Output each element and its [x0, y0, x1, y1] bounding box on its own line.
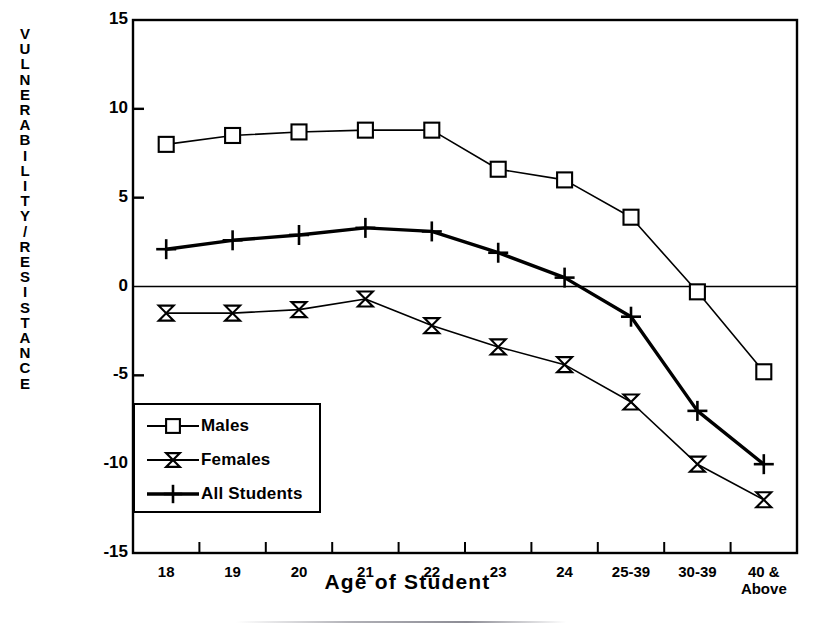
- bowtie-marker-icon: [145, 447, 201, 473]
- square-marker-icon: [145, 413, 201, 439]
- legend-item-label: Females: [201, 450, 270, 470]
- x-axis-tick-labels: 1819202122232425-3930-3940 & Above: [0, 0, 815, 629]
- legend-item-label: Males: [201, 416, 249, 436]
- x-axis-title: Age of Student: [0, 570, 815, 594]
- scan-artifact: [236, 621, 566, 623]
- chart-legend: MalesFemalesAll Students: [133, 403, 321, 513]
- legend-item-males: Males: [145, 409, 319, 443]
- legend-item-females: Females: [145, 443, 319, 477]
- legend-item-label: All Students: [201, 484, 303, 504]
- chart-figure: VULNERABILITY/RESISTANCE 151050-5-10-15 …: [0, 0, 815, 629]
- legend-item-all-students: All Students: [145, 477, 319, 511]
- plus-marker-icon: [145, 481, 201, 507]
